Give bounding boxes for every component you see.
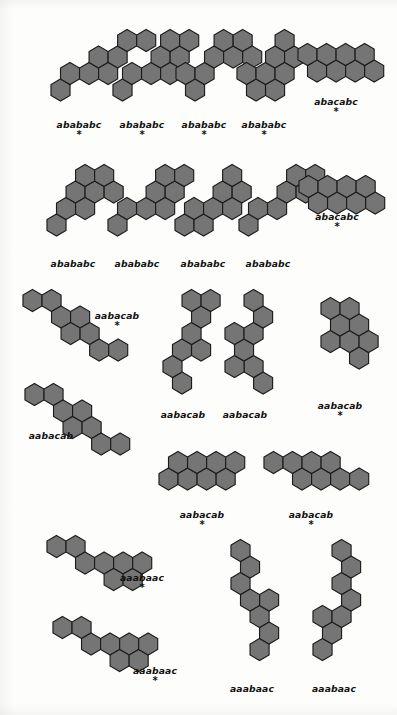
hexagon-cell [244, 290, 263, 312]
polyhex-structure [296, 174, 388, 216]
hexagon-cell [275, 30, 294, 52]
caption-asterisk: * [333, 107, 338, 117]
figure-sheet: abababc*abababc*abababc*abababc*abacabc*… [0, 0, 397, 715]
structure-caption: aaabaac [312, 683, 356, 694]
polyhex-structure [44, 534, 155, 592]
hexagon-cell [123, 63, 142, 85]
hexagon-cell [23, 290, 42, 312]
hexagon-cell [275, 63, 294, 85]
hexagon-cell [76, 165, 95, 187]
caption-asterisk: * [114, 321, 119, 331]
polyhex-structure [261, 450, 372, 492]
hexagon-cell [317, 44, 336, 66]
scan-edge-left [0, 0, 14, 715]
polyhex-structure [222, 288, 276, 396]
polyhex-structure [156, 450, 248, 492]
hexagon-cell [60, 63, 79, 85]
hexagon-cell [53, 617, 72, 639]
caption-asterisk: * [139, 583, 144, 593]
polyhex-structure [295, 42, 387, 84]
caption-asterisk: * [199, 520, 204, 530]
structure-caption: abababc [181, 258, 226, 269]
polyhex-structure [22, 382, 133, 457]
hexagon-cell [133, 552, 152, 574]
hexagon-cell [350, 468, 369, 490]
structure-caption: aaabaac [230, 683, 274, 694]
hexagon-cell [139, 633, 158, 655]
hexagon-cell [260, 589, 279, 611]
hexagon-cell [109, 339, 128, 361]
caption-asterisk: * [76, 130, 81, 140]
hexagon-cell [185, 198, 204, 220]
hexagon-cell [61, 323, 80, 345]
hexagon-cell [169, 452, 188, 474]
structure-caption: aabacab [29, 430, 73, 441]
hexagon-cell [332, 540, 351, 562]
hexagon-cell [359, 331, 378, 353]
hexagon-cell [336, 44, 355, 66]
hexagon-cell [298, 44, 317, 66]
hexagon-cell [249, 198, 268, 220]
polyhex-structure [228, 538, 282, 662]
hexagon-cell [302, 452, 321, 474]
scan-edge-bottom [0, 703, 397, 715]
structure-caption: abababc [115, 258, 160, 269]
caption-asterisk: * [308, 520, 313, 530]
hexagon-cell [182, 290, 201, 312]
hexagon-cell [226, 452, 245, 474]
hexagon-cell [82, 633, 101, 655]
hexagon-cell [176, 63, 195, 85]
caption-asterisk: * [261, 130, 266, 140]
hexagon-cell [318, 176, 337, 198]
caption-asterisk: * [152, 676, 157, 686]
hexagon-cell [299, 176, 318, 198]
hexagon-cell [207, 452, 226, 474]
hexagon-cell [76, 552, 95, 574]
hexagon-cell [356, 176, 375, 198]
caption-asterisk: * [201, 130, 206, 140]
hexagon-cell [321, 298, 340, 320]
hexagon-cell [337, 176, 356, 198]
polyhex-structure [160, 288, 223, 396]
hexagon-cell [225, 323, 244, 345]
hexagon-cell [118, 198, 137, 220]
structure-caption: abababc [51, 258, 96, 269]
hexagon-cell [331, 468, 350, 490]
hexagon-cell [47, 536, 66, 558]
scan-edge-top [0, 0, 397, 10]
hexagon-cell [25, 384, 44, 406]
hexagon-cell [214, 30, 233, 52]
hexagon-cell [110, 649, 129, 671]
hexagon-cell [231, 540, 250, 562]
structure-caption: aabacab [161, 409, 205, 420]
hexagon-cell [92, 433, 111, 455]
hexagon-cell [111, 433, 130, 455]
caption-asterisk: * [337, 411, 342, 421]
structure-caption: abababc [246, 258, 291, 269]
hexagon-cell [90, 339, 109, 361]
hexagon-cell [76, 198, 95, 220]
hexagon-cell [237, 63, 256, 85]
polyhex-structure [310, 538, 364, 662]
polyhex-structure [318, 296, 381, 371]
hexagon-cell [340, 298, 359, 320]
caption-asterisk: * [139, 130, 144, 140]
structure-caption: aabacab [223, 409, 267, 420]
caption-asterisk: * [334, 222, 339, 232]
hexagon-cell [355, 44, 374, 66]
hexagon-cell [201, 290, 220, 312]
hexagon-cell [313, 606, 332, 628]
hexagon-cell [264, 452, 283, 474]
